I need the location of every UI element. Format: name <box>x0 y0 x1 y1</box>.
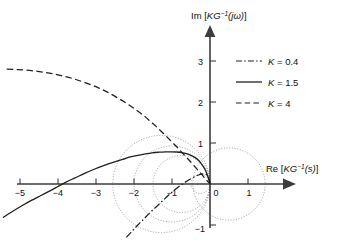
x-tick-label: 0 <box>213 188 218 198</box>
legend-item-k-4[interactable]: K = 4 <box>236 98 290 109</box>
svg-text:Im [KG−1(jω)]: Im [KG−1(jω)] <box>191 10 247 22</box>
x-tick-label: −3 <box>91 188 101 198</box>
y-tick-label: 3 <box>198 57 203 67</box>
y-axis-title-symbol: KG <box>207 10 221 21</box>
curve-group <box>3 69 210 237</box>
x-tick-label: 1 <box>246 188 251 198</box>
legend-label-k-1-5: K = 1.5 <box>268 77 298 88</box>
y-tick-labels: 3 2 1 −1 <box>195 57 205 235</box>
x-tick-marks <box>20 179 248 185</box>
x-axis-title-suffix: ] <box>316 163 319 174</box>
y-tick-label: 2 <box>198 98 203 108</box>
x-tick-label: −2 <box>129 188 139 198</box>
x-tick-labels: −5 −4 −3 −2 −1 0 1 <box>15 188 252 198</box>
y-axis-title-prefix: Im [ <box>191 10 207 21</box>
plot-canvas: −5 −4 −3 −2 −1 0 1 3 2 1 −1 Im [KG−1(jω)… <box>0 0 346 247</box>
svg-text:Re [KG−1(s)]: Re [KG−1(s)] <box>266 163 318 175</box>
legend-label-k-0-4: K = 0.4 <box>268 56 298 67</box>
y-axis-arrowhead <box>205 25 216 37</box>
y-tick-label: −1 <box>195 224 205 234</box>
x-axis-title-prefix: Re [ <box>266 163 284 174</box>
y-axis-title-suffix: ] <box>244 10 247 21</box>
legend: K = 0.4 K = 1.5 K = 4 <box>236 56 298 109</box>
x-tick-label: −1 <box>167 188 177 198</box>
x-tick-label: −4 <box>53 188 63 198</box>
x-tick-label: −5 <box>15 188 25 198</box>
x-axis-arrowhead <box>283 179 296 190</box>
x-axis-title: Re [KG−1(s)] <box>266 163 318 175</box>
curve-k-4 <box>7 69 210 184</box>
legend-item-k-0-4[interactable]: K = 0.4 <box>236 56 298 67</box>
y-tick-label: 1 <box>198 139 203 149</box>
x-axis-title-arg: (s) <box>305 163 316 174</box>
legend-label-k-4: K = 4 <box>268 98 290 109</box>
inverse-nyquist-figure: −5 −4 −3 −2 −1 0 1 3 2 1 −1 Im [KG−1(jω)… <box>0 0 346 247</box>
legend-item-k-1-5[interactable]: K = 1.5 <box>236 77 298 88</box>
y-axis-title-arg: (jω) <box>228 10 244 21</box>
y-axis-title: Im [KG−1(jω)] <box>191 10 247 22</box>
y-tick-marks <box>210 61 216 225</box>
x-axis-title-symbol: KG <box>283 163 297 174</box>
